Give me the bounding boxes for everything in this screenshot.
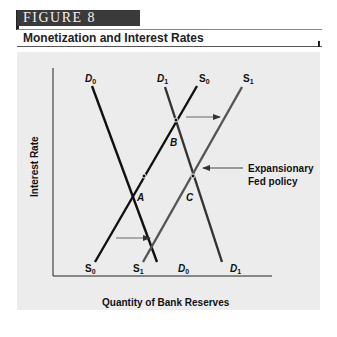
equilibrium-point-b [174, 118, 178, 122]
annotation-line-2: Fed policy [248, 176, 298, 187]
x-axis-label: Quantity of Bank Reserves [102, 297, 230, 308]
label-d1-bottom: D1 [230, 263, 241, 275]
equilibrium-point-a [142, 174, 146, 178]
label-s1-bottom: S1 [133, 263, 144, 275]
equilibrium-point-c [191, 174, 195, 178]
supply-demand-diagram: D0 D1 S0 S1 S0 S1 D0 D1 B A C Expansiona… [0, 0, 337, 337]
label-d1-top: D1 [157, 73, 168, 85]
label-s0-top: S0 [199, 73, 210, 85]
label-d0-bottom: D0 [178, 263, 189, 275]
label-s1-top: S1 [243, 73, 254, 85]
label-point-a: A [136, 192, 144, 203]
label-point-b: B [170, 137, 177, 148]
label-d0-top: D0 [85, 73, 96, 85]
y-axis-label: Interest Rate [29, 136, 40, 197]
label-s0-bottom: S0 [85, 263, 96, 275]
label-point-c: C [186, 192, 194, 203]
annotation-line-1: Expansionary [248, 163, 314, 174]
